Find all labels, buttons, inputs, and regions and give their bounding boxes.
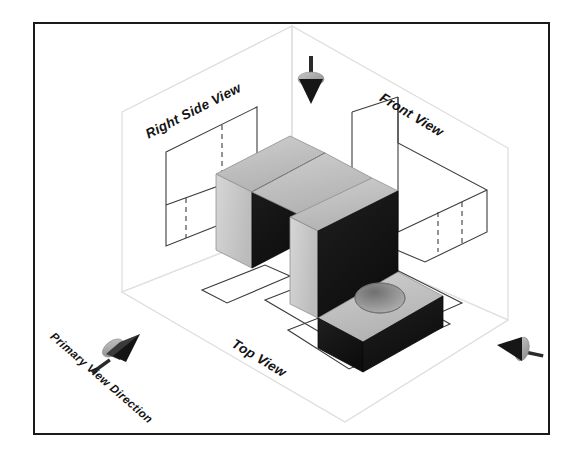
wall-main-left-face: [290, 217, 318, 318]
projection-illustration: [0, 0, 580, 456]
right-arrow-cone: [497, 337, 522, 361]
left-arrow-cone-icon: [497, 336, 544, 362]
diagram-canvas: Right Side View Front View Top View Prim…: [0, 0, 580, 456]
